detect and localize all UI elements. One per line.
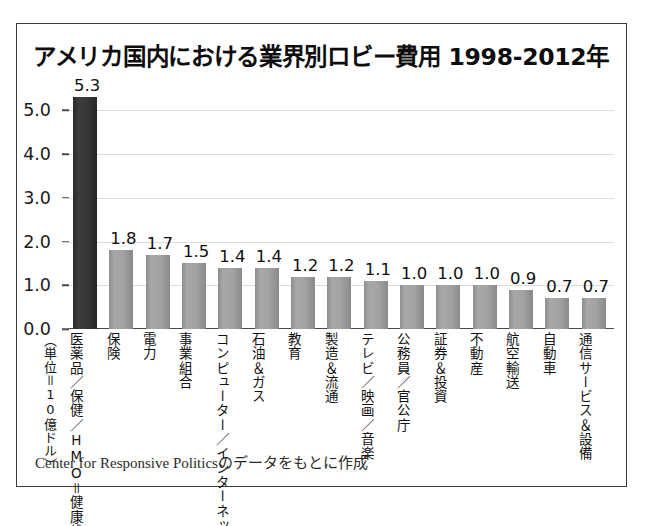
y-axis-tick-label: 3.0 (23, 188, 51, 208)
bar-value-label: 0.9 (505, 269, 541, 288)
bar-slot: 1.4 (214, 84, 250, 329)
bar-slot: 1.4 (251, 84, 287, 329)
bar[interactable] (291, 277, 315, 330)
bar[interactable] (218, 268, 242, 329)
x-axis-category-label: 証券＆投資 (432, 332, 446, 470)
bar[interactable] (109, 250, 133, 329)
x-axis-category-label: 自動車 (541, 332, 555, 470)
bar-slot: 1.2 (323, 84, 359, 329)
unit-note: （単位＝10億ドル） (43, 334, 57, 464)
bar[interactable] (509, 290, 533, 329)
bar-slot: 0.9 (505, 84, 541, 329)
bar[interactable] (545, 298, 569, 329)
x-axis-category-label: 教育 (287, 332, 301, 470)
plot-area: 0.01.02.03.04.05.0 5.31.81.71.51.41.41.2… (57, 84, 614, 329)
category-label-slot: 公務員／官公庁 (396, 332, 432, 472)
bar-value-label: 1.8 (105, 229, 141, 248)
y-axis-tick-label: 5.0 (23, 100, 51, 120)
bar[interactable] (146, 255, 170, 329)
y-axis-tick-mark (62, 285, 69, 287)
bar-value-label: 1.2 (323, 256, 359, 275)
bar[interactable] (255, 268, 279, 329)
chart-figure: アメリカ国内における業界別ロビー費用 1998-2012年 0.01.02.03… (16, 23, 627, 487)
category-label-slot: 証券＆投資 (432, 332, 468, 472)
category-label-slot: 航空輸送 (505, 332, 541, 472)
bar-value-label: 5.3 (69, 76, 105, 95)
x-axis-category-label: 医薬品／保健／HMO＝健康維持機構 (69, 332, 83, 470)
category-label-slot: 通信サービス＆設備 (578, 332, 614, 472)
bar-value-label: 1.0 (396, 264, 432, 283)
bar-slot: 1.8 (105, 84, 141, 329)
page-title: アメリカ国内における業界別ロビー費用 1998-2012年 (33, 38, 618, 72)
bar-slot: 1.0 (396, 84, 432, 329)
y-axis-tick-label: 1.0 (23, 275, 51, 295)
bar-slot: 1.1 (360, 84, 396, 329)
bar-value-label: 1.5 (178, 242, 214, 261)
y-axis-tick-mark (62, 110, 69, 112)
y-axis-tick-mark (62, 153, 69, 155)
y-axis-tick-label: 4.0 (23, 144, 51, 164)
x-axis-category-label: 石油＆ガス (251, 332, 265, 470)
x-axis-category-label: 製造＆流通 (323, 332, 337, 470)
bar-slot: 1.7 (142, 84, 178, 329)
bar[interactable] (364, 281, 388, 329)
bar-value-label: 1.4 (214, 247, 250, 266)
bar[interactable] (473, 285, 497, 329)
y-axis-tick-mark (62, 328, 69, 330)
bar-slot: 1.5 (178, 84, 214, 329)
bar-slot: 1.0 (432, 84, 468, 329)
x-axis-category-label: テレビ／映画／音楽 (360, 332, 374, 470)
y-axis-tick-label: 2.0 (23, 232, 51, 252)
x-axis-category-label: 航空輸送 (505, 332, 519, 470)
bar-series: 5.31.81.71.51.41.41.21.21.11.01.01.00.90… (69, 84, 614, 329)
bar-slot: 1.0 (469, 84, 505, 329)
x-axis-category-label: 電力 (142, 332, 156, 470)
bar[interactable] (73, 97, 97, 329)
source-note: Center for Responsive Politicsのデータをもとに作成 (35, 451, 368, 472)
x-axis-category-label: 保険 (105, 332, 119, 470)
x-axis-category-label: 不動産 (469, 332, 483, 470)
y-axis-tick-mark (62, 197, 69, 199)
x-axis-category-label: 公務員／官公庁 (396, 332, 410, 470)
bar[interactable] (400, 285, 424, 329)
bar-value-label: 1.7 (142, 234, 178, 253)
bar-value-label: 1.2 (287, 256, 323, 275)
y-axis-tick-mark (62, 241, 69, 243)
x-axis-category-label: 事業組合 (178, 332, 192, 470)
bar-value-label: 1.4 (251, 247, 287, 266)
unit-note-label: （単位＝10億ドル） (43, 334, 57, 462)
bar-slot: 0.7 (541, 84, 577, 329)
category-label-slot: 不動産 (469, 332, 505, 472)
bar-value-label: 0.7 (541, 277, 577, 296)
bar-value-label: 1.0 (432, 264, 468, 283)
bar-value-label: 0.7 (578, 277, 614, 296)
category-label-slot: 自動車 (541, 332, 577, 472)
bar[interactable] (182, 263, 206, 329)
x-axis-category-label: 通信サービス＆設備 (578, 332, 592, 470)
bar-slot: 1.2 (287, 84, 323, 329)
bar[interactable] (582, 298, 606, 329)
bar-slot: 5.3 (69, 84, 105, 329)
x-axis-category-label: コンピューター／インターネット (214, 332, 228, 470)
bar-slot: 0.7 (578, 84, 614, 329)
bar[interactable] (327, 277, 351, 330)
bar[interactable] (436, 285, 460, 329)
bar-value-label: 1.0 (469, 264, 505, 283)
bar-value-label: 1.1 (360, 260, 396, 279)
